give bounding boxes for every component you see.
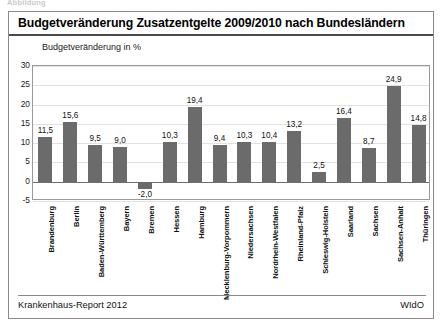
figure-box: Budgetveränderung Zusatzentgelte 2009/20… [8, 11, 434, 319]
x-axis-category-label: Saarland [346, 206, 355, 237]
bar-value-label: 24,9 [386, 75, 402, 84]
bar-value-label: 10,3 [236, 131, 252, 140]
x-axis-category-label: Brandenburg [47, 206, 56, 253]
bar-slot: 15,6 [58, 66, 83, 199]
footer-divider [18, 295, 426, 296]
bar-slot: 10,3 [232, 66, 257, 199]
bar-slot: 19,4 [182, 66, 207, 199]
y-axis-caption: Budgetveränderung in % [42, 42, 141, 52]
bar-value-label: 8,7 [363, 137, 374, 146]
x-axis-category-labels: BrandenburgBerlinBaden-WürttembergBayern… [32, 202, 430, 294]
chart-title-bar: Budgetveränderung Zusatzentgelte 2009/20… [9, 12, 433, 36]
plot-area: 11,515,69,59,0-2,010,319,49,410,310,413,… [32, 65, 430, 200]
bar[interactable] [163, 142, 177, 182]
y-axis-tick-label: 25 [10, 79, 30, 89]
bar-value-label: 10,4 [261, 131, 277, 140]
bar-value-label: 9,0 [114, 136, 125, 145]
bar[interactable] [113, 147, 127, 182]
y-axis-tick-label: 20 [10, 99, 30, 109]
y-axis-tick-label: 5 [10, 156, 30, 166]
x-axis-category-label: Mecklenburg-Vorpommern [222, 206, 231, 300]
bar-slot: 14,8 [406, 66, 431, 199]
bar-slot: 8,7 [356, 66, 381, 199]
footer-publisher: WIdO [400, 300, 424, 310]
bar[interactable] [287, 131, 301, 182]
bar[interactable] [337, 118, 351, 181]
bar-slot: 13,2 [282, 66, 307, 199]
bar-value-label: 9,5 [89, 134, 100, 143]
bar-value-label: 15,6 [62, 111, 78, 120]
bar[interactable] [88, 145, 102, 182]
bar-slot: 2,5 [307, 66, 332, 199]
x-axis-category-label: Sachsen [371, 206, 380, 237]
y-axis-tick-label: 30 [10, 60, 30, 70]
bar[interactable] [63, 122, 77, 182]
footer-source: Krankenhaus-Report 2012 [18, 300, 127, 310]
bar[interactable] [387, 86, 401, 182]
bar-value-label: 16,4 [336, 107, 352, 116]
x-axis-category-label: Niedersachsen [246, 206, 255, 259]
y-axis-tick-label: 0 [10, 176, 30, 186]
y-axis-tick-label: 10 [10, 137, 30, 147]
bar[interactable] [38, 137, 52, 181]
bar-slot: 24,9 [381, 66, 406, 199]
bar-value-label: 2,5 [313, 161, 324, 170]
bar-slot: 10,4 [257, 66, 282, 199]
x-axis-category-label: Nordrhein-Westfalen [271, 206, 280, 279]
bar[interactable] [138, 182, 152, 190]
x-axis-category-label: Sachsen-Anhalt [396, 206, 405, 262]
bar-value-label: 13,2 [286, 120, 302, 129]
figure-root: Abbildung Budgetveränderung Zusatzentgel… [0, 0, 442, 328]
bar-slot: 9,0 [108, 66, 133, 199]
bar[interactable] [237, 142, 251, 182]
bar[interactable] [262, 142, 276, 182]
bar-value-label: -2,0 [138, 190, 152, 199]
x-axis-category-label: Schleswig-Holstein [321, 206, 330, 274]
bar-slot: 9,5 [83, 66, 108, 199]
bar-value-label: 10,3 [162, 131, 178, 140]
page-title: Budgetveränderung Zusatzentgelte 2009/20… [18, 16, 405, 30]
bar-value-label: 19,4 [187, 96, 203, 105]
x-axis-category-label: Hamburg [197, 206, 206, 239]
x-axis-category-label: Hessen [172, 206, 181, 232]
bar[interactable] [362, 148, 376, 182]
bar[interactable] [188, 107, 202, 182]
bar-value-label: 14,8 [411, 114, 427, 123]
x-axis-category-label: Baden-Württemberg [97, 206, 106, 277]
y-axis-tick-label: 15 [10, 118, 30, 128]
bar-series: 11,515,69,59,0-2,010,319,49,410,310,413,… [33, 66, 429, 199]
bar-slot: 11,5 [33, 66, 58, 199]
figure-caption-cutoff: Abbildung [7, 0, 46, 7]
bar-value-label: 9,4 [214, 134, 225, 143]
y-axis-tick-label: -5 [10, 195, 30, 205]
x-axis-category-label: Bremen [147, 206, 156, 234]
bar[interactable] [312, 172, 326, 182]
bar[interactable] [213, 145, 227, 181]
bar-slot: 16,4 [332, 66, 357, 199]
x-axis-category-label: Berlin [72, 206, 81, 227]
x-axis-category-label: Rheinland-Pfalz [296, 206, 305, 261]
x-axis-category-label: Bayern [122, 206, 131, 231]
bar-slot: 9,4 [207, 66, 232, 199]
x-axis-category-label: Thüringen [421, 206, 430, 242]
bar-value-label: 11,5 [38, 126, 53, 135]
bar-slot: -2,0 [133, 66, 158, 199]
bar-slot: 10,3 [157, 66, 182, 199]
bar[interactable] [412, 125, 426, 182]
y-axis-ticks: 302520151050-5 [9, 65, 30, 200]
